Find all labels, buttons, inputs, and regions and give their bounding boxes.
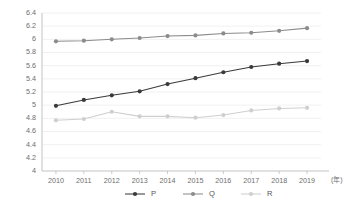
x-axis-tick-label: 2012 [104, 176, 120, 185]
data-point [221, 31, 225, 35]
y-tick-labels: 44.24.44.64.855.25.45.65.866.26.4 [26, 8, 36, 175]
data-point [277, 29, 281, 33]
data-point [249, 108, 253, 112]
series-q [54, 26, 309, 43]
data-point [277, 62, 281, 66]
data-point [54, 104, 58, 108]
legend-item-r[interactable]: R [241, 189, 273, 198]
x-tick-labels: 2010201120122013201420152016201720182019… [48, 175, 343, 185]
x-axis-tick-label: 2013 [132, 176, 148, 185]
x-axis-tick-label: 2017 [243, 176, 259, 185]
data-point [165, 114, 169, 118]
chart-canvas: 44.24.44.64.855.25.45.65.866.26.4 201020… [0, 0, 349, 208]
legend-label: R [267, 189, 273, 198]
y-axis-tick-label: 5.6 [26, 61, 36, 70]
x-axis-tick-label: 2018 [271, 176, 287, 185]
data-point [277, 106, 281, 110]
x-axis-tick-label: 2010 [48, 176, 64, 185]
data-point [249, 65, 253, 69]
data-point [138, 89, 142, 93]
data-point [305, 106, 309, 110]
series-r [54, 106, 309, 123]
data-point [138, 114, 142, 118]
legend-marker [133, 192, 137, 196]
data-point [305, 59, 309, 63]
data-point [54, 118, 58, 122]
data-point [193, 76, 197, 80]
y-axis-tick-label: 6.2 [26, 21, 36, 30]
y-axis-tick-label: 4.6 [26, 126, 36, 135]
y-axis-tick-label: 5.4 [26, 74, 36, 83]
y-axis-tick-label: 4.2 [26, 153, 36, 162]
data-point [165, 82, 169, 86]
data-point [110, 93, 114, 97]
legend-marker [191, 192, 195, 196]
line-chart: 44.24.44.64.855.25.45.65.866.26.4 201020… [0, 0, 349, 208]
x-axis-tick-label: 2014 [160, 176, 176, 185]
y-axis-tick-label: 5.8 [26, 47, 36, 56]
y-axis-tick-label: 5 [32, 100, 36, 109]
data-point [82, 117, 86, 121]
series-p [54, 59, 309, 108]
data-point [138, 36, 142, 40]
data-point [249, 31, 253, 35]
legend-item-q[interactable]: Q [183, 189, 215, 198]
x-axis-tick-label: 2015 [187, 176, 203, 185]
x-axis-tick-label: 2016 [215, 176, 231, 185]
x-axis-tick-label: 2019 [299, 176, 315, 185]
grid-layer [42, 13, 321, 158]
y-axis-tick-label: 5.2 [26, 87, 36, 96]
data-point [221, 70, 225, 74]
y-axis-tick-label: 4.4 [26, 140, 36, 149]
y-axis-tick-label: 6.4 [26, 8, 36, 17]
data-point [82, 98, 86, 102]
axis-layer [42, 13, 329, 174]
series-layer [54, 26, 309, 122]
data-point [221, 113, 225, 117]
legend-item-p[interactable]: P [125, 189, 156, 198]
y-axis-tick-label: 4.8 [26, 113, 36, 122]
legend-label: Q [209, 189, 215, 198]
data-point [165, 34, 169, 38]
data-point [82, 39, 86, 43]
legend-label: P [151, 189, 156, 198]
legend-marker [249, 192, 253, 196]
data-point [110, 110, 114, 114]
data-point [110, 37, 114, 41]
data-point [305, 26, 309, 30]
data-point [193, 116, 197, 120]
data-point [54, 39, 58, 43]
y-axis-tick-label: 4 [32, 166, 36, 175]
data-point [193, 33, 197, 37]
x-axis-tick-label: 2011 [76, 176, 91, 185]
y-axis-tick-label: 6 [32, 34, 36, 43]
series-line-p [56, 61, 307, 106]
legend: PQR [125, 189, 273, 198]
x-axis-unit-label: (年) [331, 175, 343, 184]
